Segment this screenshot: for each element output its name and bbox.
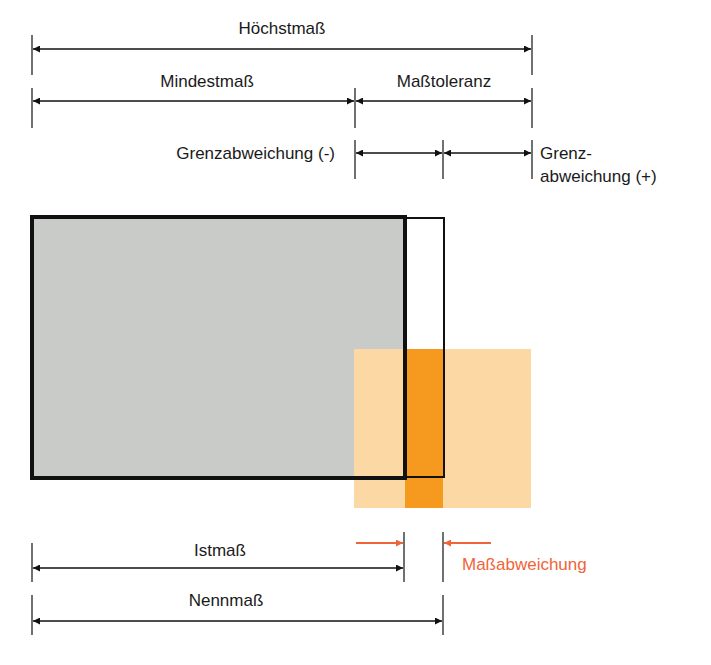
massabweichung-label: Maßabweichung (462, 555, 587, 574)
masstoleranz-label: Maßtoleranz (397, 72, 491, 91)
tolerance-zone-dark (405, 349, 443, 508)
nennmass-label: Nennmaß (189, 591, 264, 610)
hoechstmass-dimension: Höchstmaß (33, 19, 531, 49)
massabweichung-indicator: Maßabweichung (356, 543, 587, 574)
grenzabweichung-dimensions: Grenzabweichung (-) Grenz- abweichung (+… (176, 144, 656, 186)
grenzabweichung-plus-label-line1: Grenz- (540, 144, 592, 163)
istmass-label: Istmaß (194, 541, 246, 560)
grenzabweichung-minus-label: Grenzabweichung (-) (176, 144, 335, 163)
part-actual-fill (32, 217, 405, 478)
masstoleranz-dimension: Maßtoleranz (356, 72, 531, 101)
istmass-dimension: Istmaß (33, 541, 403, 568)
hoechstmass-label: Höchstmaß (239, 19, 326, 38)
mindestmass-label: Mindestmaß (160, 72, 254, 91)
tolerance-diagram: Höchstmaß Mindestmaß Maßtoleranz Grenzab… (0, 0, 711, 665)
mindestmass-dimension: Mindestmaß (33, 72, 354, 101)
nennmass-dimension: Nennmaß (33, 591, 442, 621)
grenzabweichung-plus-label-line2: abweichung (+) (540, 167, 657, 186)
